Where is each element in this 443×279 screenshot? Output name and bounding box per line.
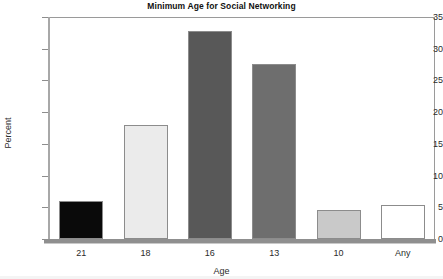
y-axis-tick-label: 25: [405, 75, 443, 85]
plot-area: [48, 17, 435, 240]
chart-title: Minimum Age for Social Networking: [0, 1, 443, 11]
y-axis-tick-label: 35: [405, 12, 443, 22]
y-axis-tick: [42, 176, 48, 177]
x-axis-tick-label: Any: [395, 248, 411, 258]
bar-18: [124, 125, 168, 239]
y-axis-spine: [48, 17, 50, 240]
y-axis-tick-label: 20: [405, 107, 443, 117]
y-axis-tick-label: 10: [405, 171, 443, 181]
y-axis-tick: [42, 207, 48, 208]
x-axis-tick-label: 10: [333, 248, 343, 258]
bar-13: [252, 64, 296, 239]
y-axis-tick: [42, 144, 48, 145]
y-axis-tick: [42, 80, 48, 81]
bar-10: [317, 210, 361, 239]
y-axis-tick: [42, 49, 48, 50]
y-axis-tick-label: 30: [405, 44, 443, 54]
y-axis-title: Percent: [3, 103, 13, 163]
y-axis-tick-label: 15: [405, 139, 443, 149]
bar-21: [59, 201, 103, 239]
y-axis-tick: [42, 17, 48, 18]
x-axis-tick-label: 18: [140, 248, 150, 258]
x-axis-tick-label: 16: [205, 248, 215, 258]
x-axis-baseline-shadow: [44, 243, 436, 244]
bar-any: [381, 205, 425, 239]
x-axis-tick-label: 21: [76, 248, 86, 258]
bar-chart: Minimum Age for Social Networking 051015…: [0, 0, 443, 279]
x-axis-tick-label: 13: [269, 248, 279, 258]
bar-16: [188, 31, 232, 239]
y-axis-tick: [42, 112, 48, 113]
x-axis-title: Age: [0, 266, 443, 276]
